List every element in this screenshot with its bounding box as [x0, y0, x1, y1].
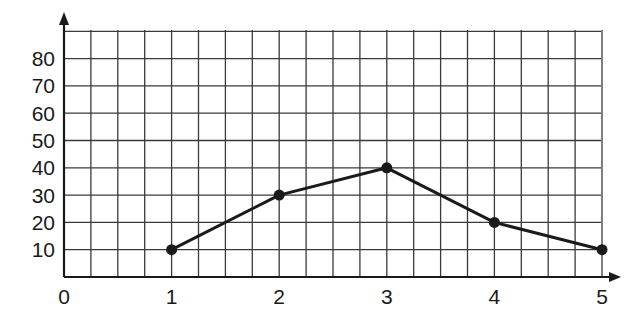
- x-axis-arrow-icon: [609, 272, 621, 282]
- y-tick-label: 50: [32, 129, 55, 152]
- data-point: [597, 244, 608, 255]
- data-point: [381, 162, 392, 173]
- x-tick-label: 0: [58, 285, 70, 308]
- x-tick-label: 1: [166, 285, 178, 308]
- y-tick-labels: 1020304050607080: [32, 47, 55, 261]
- y-axis-arrow-icon: [59, 12, 69, 25]
- x-tick-label: 3: [381, 285, 393, 308]
- y-tick-label: 10: [32, 238, 55, 261]
- data-point: [274, 190, 285, 201]
- y-tick-label: 40: [32, 156, 55, 179]
- axes: [59, 12, 621, 282]
- y-tick-label: 60: [32, 102, 55, 125]
- y-tick-label: 30: [32, 184, 55, 207]
- y-tick-label: 70: [32, 74, 55, 97]
- x-tick-labels: 012345: [58, 285, 608, 308]
- line-chart: 1020304050607080 012345: [0, 0, 635, 324]
- data-point: [489, 217, 500, 228]
- x-tick-label: 4: [489, 285, 501, 308]
- grid: [64, 30, 602, 277]
- data-point: [166, 244, 177, 255]
- y-tick-label: 20: [32, 211, 55, 234]
- y-tick-label: 80: [32, 47, 55, 70]
- x-tick-label: 2: [273, 285, 285, 308]
- x-tick-label: 5: [596, 285, 608, 308]
